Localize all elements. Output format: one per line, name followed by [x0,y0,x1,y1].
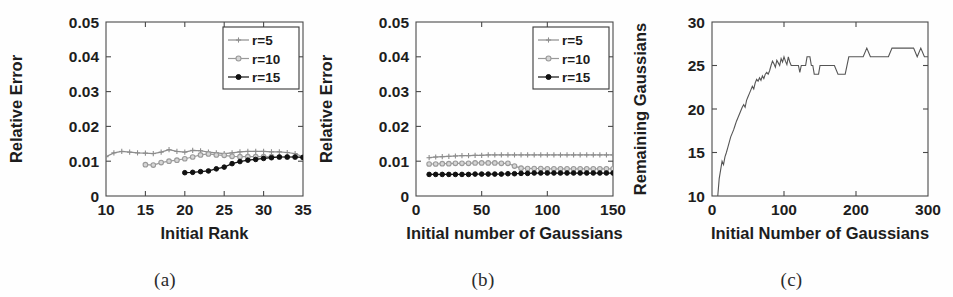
y-tick-label: 0.01 [379,153,410,170]
marker-circle-open [447,161,452,166]
marker-circle-open [538,166,543,171]
x-tick-label: 0 [412,201,421,218]
marker-circle-open [198,153,203,158]
y-tick-label: 0.05 [379,14,410,31]
y-tick-label: 10 [688,188,705,205]
marker-circle-filled [532,171,537,176]
legend-marker-circle-open [236,56,241,61]
x-tick-label: 200 [843,201,869,218]
marker-circle-filled [460,172,465,177]
subplot-b-caption: (b) [318,269,648,291]
marker-circle-filled [285,155,290,160]
x-axis-title: Initial number of Gaussians [406,224,622,242]
marker-circle-filled [466,172,471,177]
marker-circle-filled [222,165,227,170]
figure-container: 10152025303500.010.020.030.040.05Initial… [0,0,953,297]
marker-circle-open [473,161,478,166]
marker-circle-filled [598,171,603,176]
marker-circle-open [238,154,243,159]
y-tick-label: 0.05 [69,14,100,31]
marker-circle-open [143,162,148,167]
marker-circle-filled [493,172,498,177]
legend-marker-circle-open [546,56,551,61]
legend-marker-circle-filled [546,75,551,80]
series-group [718,48,928,196]
marker-circle-filled [293,155,298,160]
marker-circle-open [151,163,156,168]
x-tick-label: 10 [97,201,114,218]
marker-circle-open [479,161,484,166]
marker-circle-open [175,158,180,163]
marker-circle-filled [565,171,570,176]
marker-circle-open [532,166,537,171]
marker-circle-open [159,160,164,165]
marker-circle-open [499,161,504,166]
marker-circle-open [190,155,195,160]
y-tick-label: 20 [688,101,705,118]
marker-circle-open [214,153,219,158]
x-tick-label: 100 [534,201,560,218]
x-tick-label: 20 [176,201,193,218]
marker-circle-filled [538,171,543,176]
marker-circle-filled [253,157,258,162]
x-tick-label: 15 [137,201,155,218]
x-tick-label: 50 [473,201,490,218]
subplot-c-caption: (c) [630,269,953,291]
y-axis-title: Relative Error [7,54,25,163]
y-tick-label: 0 [90,188,99,205]
marker-circle-open [506,161,511,166]
marker-circle-filled [427,172,432,177]
legend-label-r=10: r=10 [252,52,280,67]
legend-label-r=5: r=5 [252,33,273,48]
marker-circle-filled [506,171,511,176]
marker-circle-open [206,152,211,157]
marker-circle-open [167,159,172,164]
marker-circle-filled [611,171,616,176]
marker-circle-open [183,156,188,161]
marker-circle-filled [479,172,484,177]
marker-circle-open [427,162,432,167]
subplot-a: 10152025303500.010.020.030.040.05Initial… [0,0,330,297]
subplot-a-caption: (a) [0,269,330,291]
y-axis-title: Relative Error [318,54,335,163]
y-tick-label: 0.04 [379,48,410,65]
marker-circle-filled [230,161,235,166]
marker-circle-filled [545,171,550,176]
x-tick-label: 30 [255,201,272,218]
y-tick-label: 0.02 [69,118,99,135]
subplot-a-canvas: 10152025303500.010.020.030.040.05Initial… [0,0,330,252]
y-tick-label: 30 [688,14,705,31]
marker-circle-filled [578,171,583,176]
subplot-b-canvas: 05010015000.010.020.030.040.05Initial nu… [318,0,648,252]
marker-circle-open [460,161,465,166]
marker-circle-filled [206,169,211,174]
marker-circle-open [466,161,471,166]
y-tick-label: 0 [400,188,409,205]
marker-circle-filled [190,170,195,175]
legend-label-r=5: r=5 [562,33,583,48]
marker-circle-open [512,164,517,169]
marker-circle-filled [301,155,306,160]
series-group [427,152,616,176]
marker-circle-filled [558,171,563,176]
marker-circle-filled [447,172,452,177]
x-tick-label: 25 [216,201,234,218]
series-line-remaining-gaussians [718,48,928,196]
x-tick-label: 35 [294,201,312,218]
x-tick-label: 0 [708,201,717,218]
marker-circle-filled [277,155,282,160]
marker-circle-filled [499,172,504,177]
legend-label-r=15: r=15 [562,70,591,85]
y-tick-label: 0.01 [69,153,100,170]
y-tick-label: 0.04 [69,48,100,65]
legend: r=5r=10r=15 [533,27,609,89]
marker-circle-open [525,166,530,171]
marker-circle-open [440,161,445,166]
legend-label-r=15: r=15 [252,70,281,85]
marker-circle-filled [183,170,188,175]
legend: r=5r=10r=15 [223,27,299,89]
marker-circle-filled [604,171,609,176]
x-tick-label: 100 [771,201,797,218]
marker-circle-filled [525,171,530,176]
marker-circle-open [230,154,235,159]
